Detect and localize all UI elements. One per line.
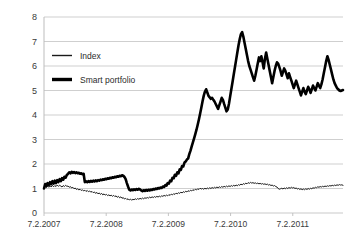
x-tick-label-7.2.2009: 7.2.2009 xyxy=(152,219,185,229)
chart-background xyxy=(0,0,357,241)
y-tick-label-7: 7 xyxy=(32,37,37,47)
y-tick-label-5: 5 xyxy=(32,86,37,96)
y-tick-label-6: 6 xyxy=(32,61,37,71)
y-tick-label-3: 3 xyxy=(32,135,37,145)
chart-canvas: 012345678 7.2.20077.2.20087.2.20097.2.20… xyxy=(0,0,357,241)
y-tick-labels: 012345678 xyxy=(32,12,37,218)
legend-label-smart-portfolio: Smart portfolio xyxy=(80,75,136,85)
x-tick-label-7.2.2011: 7.2.2011 xyxy=(277,219,310,229)
line-chart: 012345678 7.2.20077.2.20087.2.20097.2.20… xyxy=(0,0,357,241)
y-tick-label-1: 1 xyxy=(32,184,37,194)
x-tick-label-7.2.2007: 7.2.2007 xyxy=(27,219,60,229)
y-tick-label-4: 4 xyxy=(32,110,37,120)
y-tick-label-0: 0 xyxy=(32,208,37,218)
legend-label-index: Index xyxy=(80,51,102,61)
y-tick-label-8: 8 xyxy=(32,12,37,22)
x-tick-label-7.2.2010: 7.2.2010 xyxy=(214,219,247,229)
x-tick-label-7.2.2008: 7.2.2008 xyxy=(90,219,123,229)
y-tick-label-2: 2 xyxy=(32,159,37,169)
